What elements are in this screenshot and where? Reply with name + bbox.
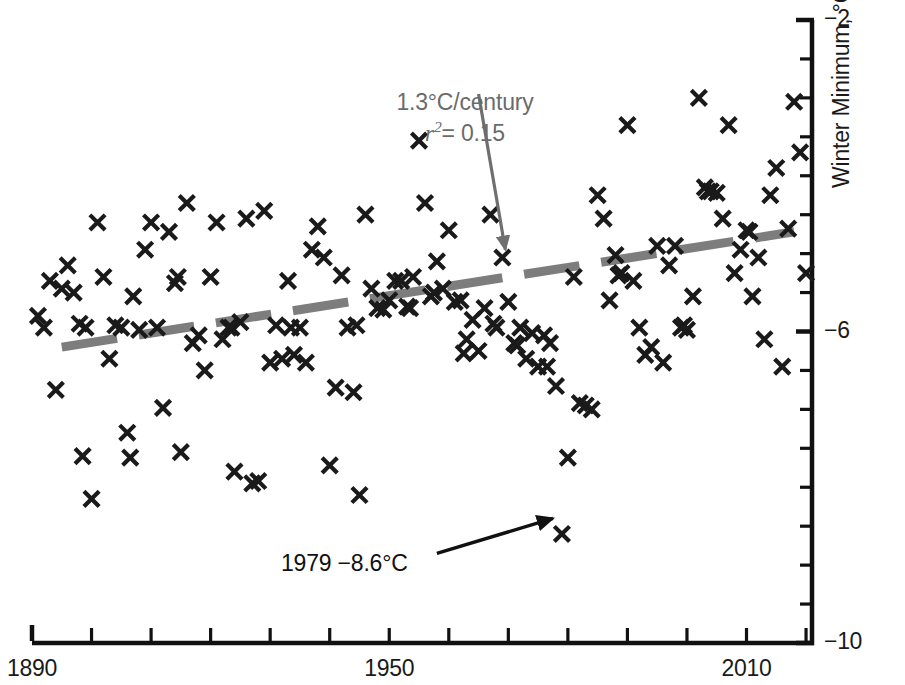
- scatter-chart: 189019502010−2−6−10 Winter Minimum, °C 1…: [0, 0, 905, 685]
- x-tick-label-2010: 2010: [707, 655, 787, 682]
- outlier-annotation: 1979 −8.6°C: [281, 550, 408, 577]
- r-symbol: r: [425, 121, 434, 146]
- x-tick-label-1950: 1950: [349, 655, 429, 682]
- x-tick-label-1890: 1890: [0, 655, 72, 682]
- trend-rsquared-label: r2= 0.15: [330, 117, 600, 148]
- trend-rate-label: 1.3°C/century: [330, 88, 600, 117]
- y-tick-label-10: −10: [824, 628, 862, 655]
- r-value: = 0.15: [442, 120, 505, 146]
- y-axis-title: Winter Minimum, °C: [828, 0, 855, 188]
- r-exponent: 2: [434, 118, 442, 135]
- trendline-annotation: 1.3°C/century r2= 0.15: [330, 88, 600, 149]
- data-points: [30, 90, 813, 541]
- y-tick-label-6: −6: [824, 317, 850, 344]
